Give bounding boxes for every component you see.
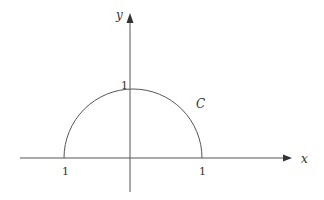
curve-label: C [196,97,205,111]
diagram-canvas: y x 1 1 1 C [0,0,324,200]
y-axis [127,13,134,192]
y-axis-label: y [115,8,123,22]
x-axis-arrow-icon [283,155,292,162]
y-axis-arrow-icon [127,13,134,23]
tick-label-x-left: 1 [62,165,69,178]
tick-label-y-top: 1 [121,79,128,92]
x-axis-label: x [301,152,308,166]
tick-label-x-right: 1 [199,165,206,178]
x-axis [20,155,292,162]
curve-c [64,89,202,158]
